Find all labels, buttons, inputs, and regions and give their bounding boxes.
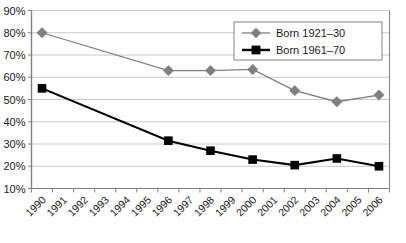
data-point-marker: [333, 154, 342, 163]
legend-label-2: Born 1961–70: [276, 44, 345, 56]
legend-marker-square-icon: [252, 46, 261, 55]
data-point-marker: [38, 84, 47, 93]
y-axis-label: 70%: [3, 49, 25, 61]
y-axis-label: 80%: [3, 27, 25, 39]
x-axis-label: 1990: [23, 193, 48, 218]
x-axis-label: 1999: [212, 193, 237, 218]
legend-label-1: Born 1921–30: [276, 27, 345, 39]
x-axis-label: 2002: [276, 193, 301, 218]
x-axis-label: 2004: [318, 193, 343, 218]
y-axis-label: 60%: [3, 71, 25, 83]
x-axis-label: 2001: [255, 193, 280, 218]
data-point-marker: [248, 155, 257, 164]
x-axis-label: 2006: [360, 193, 385, 218]
y-axis-label: 10%: [3, 183, 25, 195]
x-axis-label: 1995: [128, 193, 153, 218]
data-point-marker: [290, 161, 299, 170]
y-axis-label: 30%: [3, 138, 25, 150]
x-axis-label: 1997: [170, 193, 195, 218]
y-axis-label: 50%: [3, 94, 25, 106]
x-axis-label: 1993: [86, 193, 111, 218]
data-point-marker: [164, 136, 173, 145]
chart-container: 90%80%70%60%50%40%30%20%10%1990199119921…: [0, 0, 406, 243]
data-point-marker: [375, 162, 384, 171]
x-axis-label: 1996: [149, 193, 174, 218]
line-chart: 90%80%70%60%50%40%30%20%10%1990199119921…: [0, 0, 406, 243]
x-axis-label: 1994: [107, 193, 132, 218]
data-point-marker: [206, 146, 215, 155]
y-axis-label: 40%: [3, 116, 25, 128]
x-axis-label: 1991: [44, 193, 69, 218]
x-axis-label: 2000: [234, 193, 259, 218]
x-axis-label: 1992: [65, 193, 90, 218]
y-axis-label: 20%: [3, 160, 25, 172]
x-axis-label: 1998: [191, 193, 216, 218]
x-axis-label: 2005: [339, 193, 364, 218]
x-axis-label: 2003: [297, 193, 322, 218]
y-axis-label: 90%: [3, 5, 25, 17]
